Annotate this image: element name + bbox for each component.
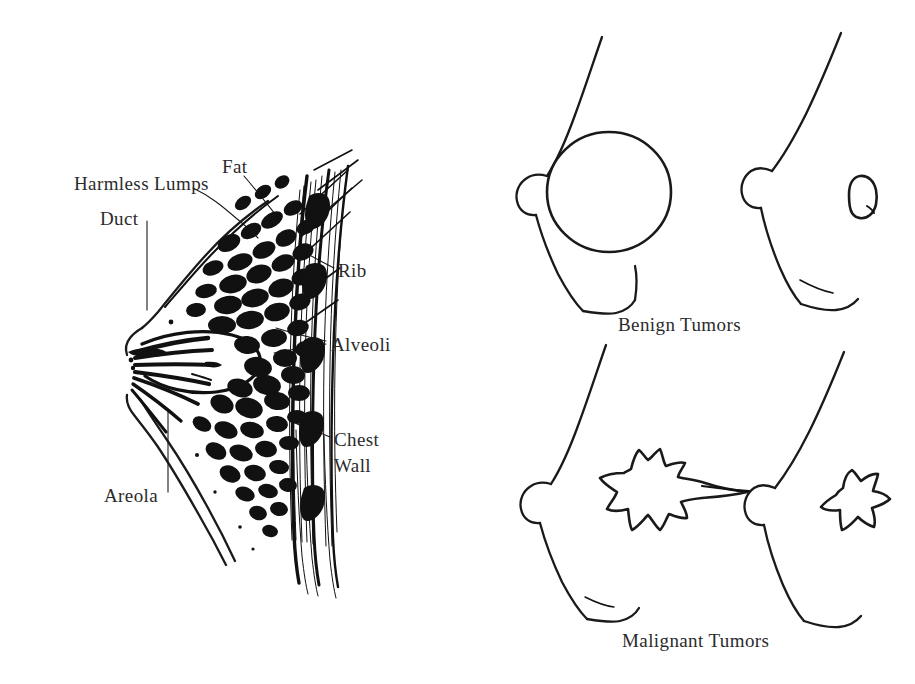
benign-large-chest-slope <box>635 266 637 300</box>
breast-anatomy-panel: Harmless Lumps Duct Fat Rib Alveoli Ches… <box>0 0 460 684</box>
malignant-large-lower-contour <box>540 523 587 619</box>
illustration-root: Harmless Lumps Duct Fat Rib Alveoli Ches… <box>0 0 915 684</box>
malignant-large-upper-contour <box>551 345 606 484</box>
malignant-small-figure <box>744 352 890 627</box>
sinus-marking-1 <box>205 362 222 368</box>
benign-small-nipple <box>741 168 772 208</box>
label-chest-wall-line2: Wall <box>334 455 371 476</box>
malignant-large-nipple <box>520 483 551 523</box>
chest-wall-mid-edge <box>313 170 330 585</box>
duct-opening-1 <box>129 358 134 363</box>
caption-benign-tumors: Benign Tumors <box>618 314 741 335</box>
caption-malignant-tumors: Malignant Tumors <box>622 630 769 651</box>
malignant-star-tumor <box>821 470 890 530</box>
malignant-small-nipple <box>744 485 775 525</box>
label-chest-wall-line1: Chest <box>334 429 380 450</box>
label-fat: Fat <box>222 156 248 177</box>
malignant-small-underfold <box>804 616 861 627</box>
chest-wall-back-edge <box>332 166 349 587</box>
benign-large-figure <box>516 37 671 314</box>
malignant-large-figure <box>520 345 749 622</box>
benign-large-nipple <box>516 175 547 215</box>
duct-ray-3 <box>135 364 214 365</box>
benign-small-underfold <box>801 299 858 310</box>
skin-lower-curve <box>127 395 226 565</box>
benign-small-upper-contour <box>772 33 841 171</box>
benign-large-underfold <box>583 300 635 314</box>
benign-small-figure <box>741 33 876 310</box>
benign-round-tumor <box>547 132 671 252</box>
malignant-small-lower-contour <box>764 525 804 621</box>
malignant-small-upper-contour <box>775 352 844 488</box>
label-rib: Rib <box>338 260 367 281</box>
label-areola: Areola <box>104 485 158 506</box>
breast-cross-section-svg: Harmless Lumps Duct Fat Rib Alveoli Ches… <box>0 0 460 684</box>
tumor-comparison-panel: Benign Tumors Malignant Tumors <box>455 0 915 684</box>
tumor-comparison-svg: Benign Tumors Malignant Tumors <box>455 0 915 684</box>
benign-small-lower-contour <box>761 208 801 304</box>
benign-small-fold-detail <box>800 280 833 293</box>
label-harmless-lumps: Harmless Lumps <box>74 173 209 194</box>
malignant-large-fold-detail <box>585 597 614 607</box>
label-alveoli: Alveoli <box>331 334 391 355</box>
malignant-large-underfold <box>587 608 639 622</box>
alveoli-lobules <box>169 172 319 550</box>
label-duct: Duct <box>100 208 139 229</box>
